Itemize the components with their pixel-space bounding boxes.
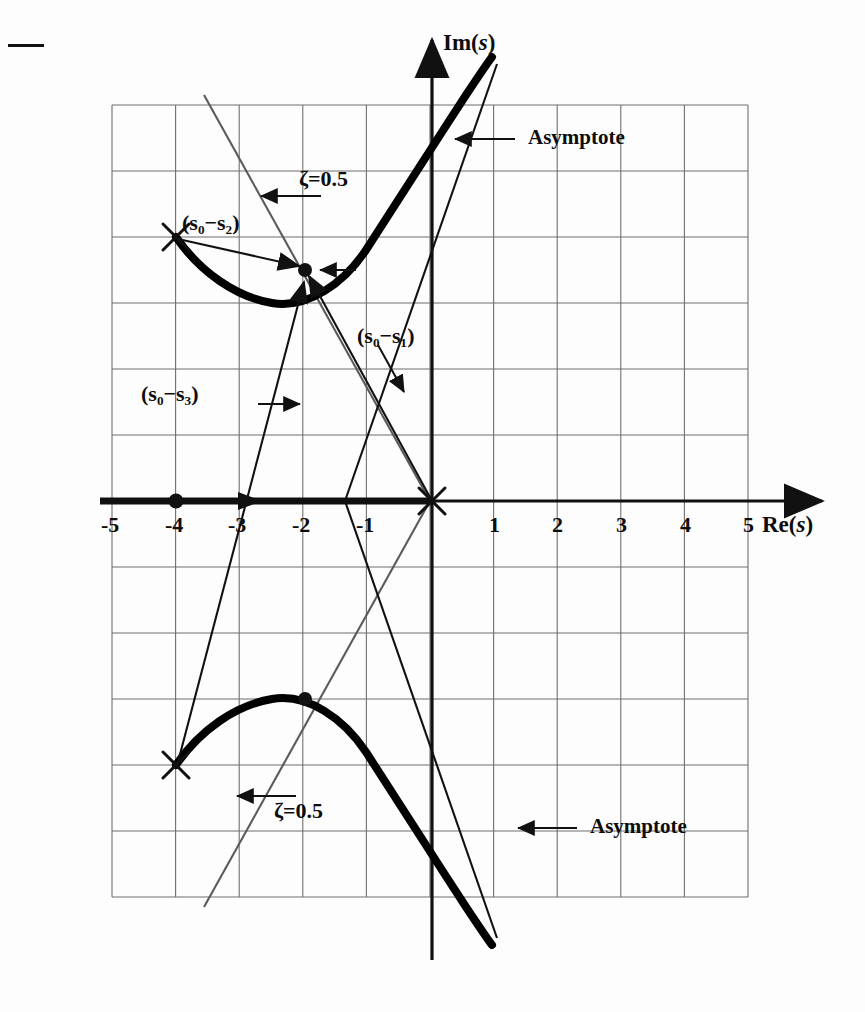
vector-label-s0-s3: (s₀−s₃): [141, 383, 199, 405]
x-tick-label-neg1: -1: [356, 514, 374, 536]
asymptote-lower-label: Asymptote: [590, 816, 687, 837]
x-tick-label-neg3: -3: [228, 514, 246, 536]
asymptote-upper-label: Asymptote: [528, 127, 625, 148]
zeta-lower-label: ζ=0.5: [274, 800, 323, 822]
zeta-upper-label: ζ=0.5: [299, 168, 348, 190]
test-points: [298, 263, 312, 706]
test-point-s0: [298, 263, 312, 277]
vector-s0-s1: [309, 276, 432, 501]
x-tick-label-4: 4: [680, 514, 691, 536]
vector-label-s0-s2: (s₀−s₂): [182, 212, 240, 234]
lower-branch: [176, 698, 492, 945]
x-tick-label-2: 2: [552, 514, 563, 536]
vector-label-s0-s1: (s₀−s₁): [357, 325, 415, 347]
x-tick-label-3: 3: [616, 514, 627, 536]
label-leaders: [237, 139, 577, 828]
x-tick-label-neg5: -5: [101, 514, 119, 536]
x-tick-label-5: 5: [743, 514, 754, 536]
x-tick-label-neg4: -4: [165, 514, 183, 536]
root-locus-figure: Im(s) Re(s) -5 -4 -3 -2 -1 1 2 3 4 5 Asy…: [0, 0, 865, 1012]
y-axis-label: Im(s): [443, 31, 495, 54]
coordinate-axes: [100, 40, 822, 960]
root-locus-svg: [0, 0, 865, 1012]
x-tick-label-neg2: -2: [292, 514, 310, 536]
x-tick-label-1: 1: [489, 514, 500, 536]
test-point-s0-conj: [298, 692, 312, 706]
x-axis-label: Re(s): [762, 513, 813, 536]
